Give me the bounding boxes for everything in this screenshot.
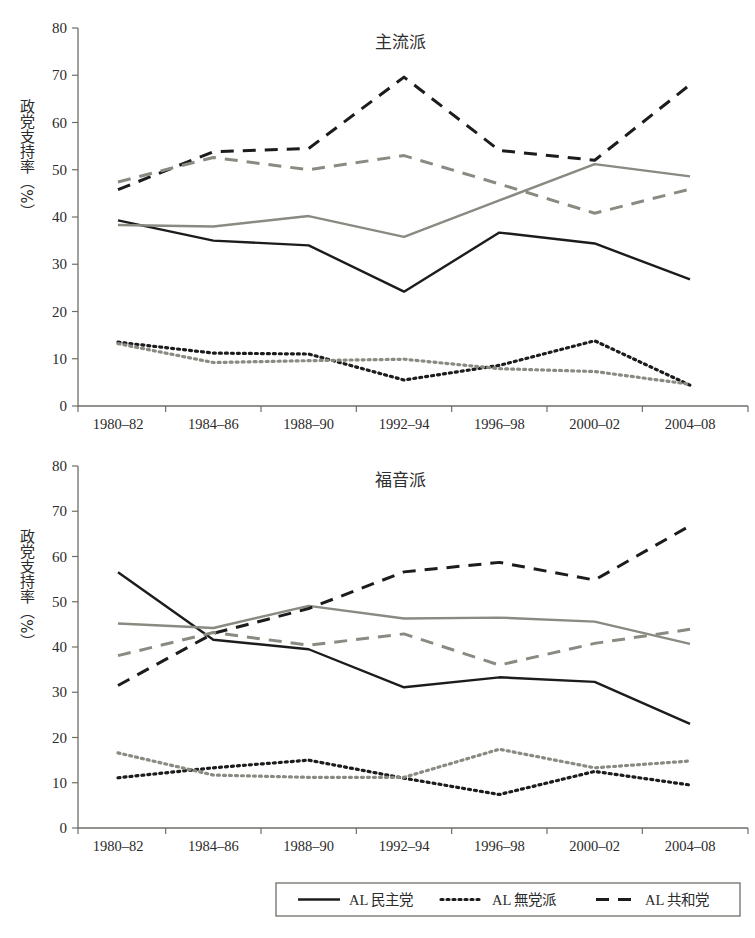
- y-tick-label: 10: [52, 775, 67, 791]
- y-tick-label: 50: [52, 162, 67, 178]
- x-tick-label: 1992–94: [379, 416, 431, 432]
- y-tick-label: 40: [52, 639, 67, 655]
- x-tick-label: 1992–94: [379, 838, 431, 854]
- series-line-1: [118, 572, 690, 724]
- y-tick-label: 60: [52, 115, 67, 131]
- chart-panel-1: 010203040506070801980–821984–861988–9019…: [17, 20, 748, 432]
- x-tick-label: 2000–02: [569, 838, 620, 854]
- series-line-6: [118, 629, 690, 665]
- y-axis-title: 政党支持率（%）: [17, 529, 35, 648]
- chart-panel-2: 010203040506070801980–821984–861988–9019…: [17, 458, 748, 854]
- legend-label-3: AL 共和党: [645, 892, 709, 908]
- y-axis-title: 政党支持率（%）: [17, 99, 35, 218]
- y-tick-label: 30: [52, 684, 67, 700]
- series-line-2: [118, 164, 690, 237]
- y-tick-label: 0: [60, 820, 68, 836]
- series-line-3: [118, 341, 690, 385]
- y-tick-label: 0: [60, 398, 68, 414]
- series-line-1: [118, 220, 690, 291]
- y-tick-label: 40: [52, 209, 67, 225]
- x-tick-label: 2000–02: [569, 416, 620, 432]
- series-line-4: [118, 344, 690, 385]
- y-tick-label: 80: [52, 458, 67, 474]
- x-tick-label: 1984–86: [188, 838, 239, 854]
- x-tick-label: 2004–08: [665, 416, 716, 432]
- series-line-5: [118, 526, 690, 686]
- panel-title: 主流派: [375, 32, 426, 52]
- x-tick-label: 1996–98: [474, 416, 525, 432]
- series-line-5: [118, 77, 690, 189]
- y-tick-label: 70: [52, 67, 67, 83]
- y-tick-label: 80: [52, 20, 67, 36]
- y-tick-label: 30: [52, 256, 67, 272]
- axis-spines: [78, 466, 748, 828]
- y-tick-label: 60: [52, 549, 67, 565]
- y-tick-label: 20: [52, 304, 67, 320]
- panel-title: 福音派: [375, 470, 426, 490]
- y-tick-label: 50: [52, 594, 67, 610]
- y-tick-label: 70: [52, 503, 67, 519]
- y-tick-label: 20: [52, 730, 67, 746]
- x-tick-label: 1996–98: [474, 838, 525, 854]
- y-tick-label: 10: [52, 351, 67, 367]
- x-tick-label: 1984–86: [188, 416, 239, 432]
- x-tick-label: 1988–90: [283, 838, 334, 854]
- x-tick-label: 1988–90: [283, 416, 334, 432]
- x-tick-label: 1980–82: [93, 838, 144, 854]
- figure-container: 010203040506070801980–821984–861988–9019…: [0, 0, 755, 938]
- legend: AL 民主党AL 無党派AL 共和党: [276, 883, 740, 916]
- legend-label-2: AL 無党派: [492, 892, 557, 908]
- legend-label-1: AL 民主党: [349, 892, 413, 908]
- x-tick-label: 2004–08: [665, 838, 716, 854]
- two-panel-line-chart: 010203040506070801980–821984–861988–9019…: [0, 0, 755, 938]
- x-tick-label: 1980–82: [93, 416, 144, 432]
